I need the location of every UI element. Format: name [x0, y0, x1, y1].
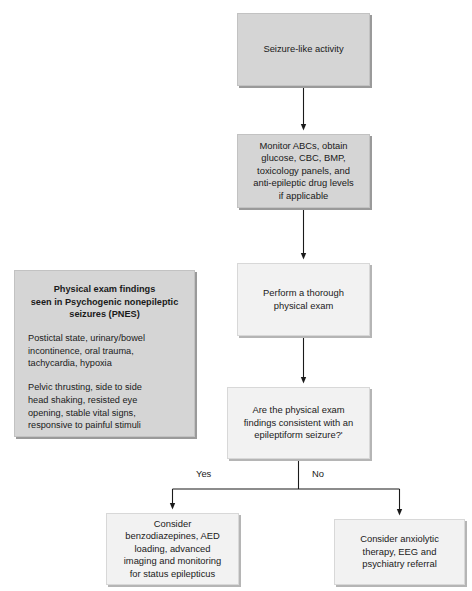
- node-outcome-nonepileptic-treatment-label: Consider anxiolytic therapy, EEG and psy…: [354, 533, 445, 570]
- branch-label-yes: Yes: [196, 468, 211, 479]
- node-outcome-nonepileptic-treatment[interactable]: Consider anxiolytic therapy, EEG and psy…: [334, 519, 465, 585]
- node-physical-exam[interactable]: Perform a thorough physical exam: [237, 263, 370, 336]
- node-decision-epileptiform-seizure[interactable]: Are the physical exam findings consisten…: [227, 387, 370, 459]
- node-outcome-epileptic-treatment-label: Consider benzodiazepines, AED loading, a…: [118, 518, 227, 580]
- side-panel-pnes-paragraph-1: Postictal state, urinary/bowel incontine…: [28, 332, 181, 370]
- node-outcome-epileptic-treatment[interactable]: Consider benzodiazepines, AED loading, a…: [106, 513, 239, 585]
- node-seizure-like-activity-label: Seizure-like activity: [257, 43, 349, 55]
- side-panel-pnes-title: Physical exam findings seen in Psychogen…: [28, 283, 181, 321]
- side-panel-pnes-paragraph-2: Pelvic thrusting, side to side head shak…: [28, 381, 181, 432]
- flowchart-canvas: Seizure-like activity Monitor ABCs, obta…: [0, 0, 472, 591]
- node-initial-workup[interactable]: Monitor ABCs, obtain glucose, CBC, BMP, …: [237, 134, 370, 208]
- branch-label-no: No: [312, 468, 324, 479]
- node-initial-workup-label: Monitor ABCs, obtain glucose, CBC, BMP, …: [247, 140, 360, 202]
- side-panel-pnes: Physical exam findings seen in Psychogen…: [14, 270, 195, 437]
- node-decision-epileptiform-seizure-label: Are the physical exam findings consisten…: [238, 404, 359, 441]
- node-seizure-like-activity[interactable]: Seizure-like activity: [237, 13, 370, 86]
- node-physical-exam-label: Perform a thorough physical exam: [257, 287, 350, 312]
